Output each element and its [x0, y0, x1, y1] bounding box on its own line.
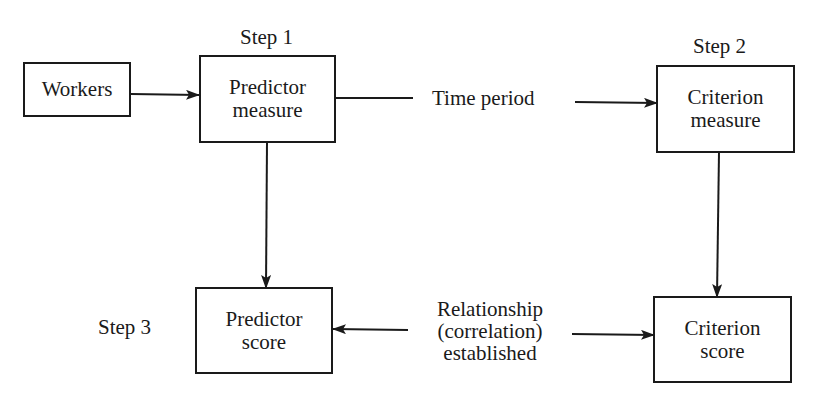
node-criterion-score-line-2: score [700, 340, 744, 363]
edge-label-relationship-line-2: (correlation) [420, 320, 560, 342]
edge-label-relationship-line-3: established [420, 342, 560, 364]
edge-label-relationship-line-1: Relationship [420, 298, 560, 320]
arrow-criterion-measure-to-criterion-score [717, 152, 719, 297]
node-criterion-measure-line-1: Criterion [688, 86, 764, 109]
node-predictor-score-line-2: score [242, 331, 286, 354]
node-predictor-score: Predictor score [195, 287, 333, 374]
node-workers-line-1: Workers [42, 78, 113, 101]
arrow-relationship-to-predictor-score [333, 329, 408, 330]
predictive-validity-diagram: Step 1 Step 2 Step 3 Workers Predictor m… [0, 0, 819, 401]
node-criterion-measure: Criterion measure [656, 65, 795, 153]
edge-label-relationship: Relationship (correlation) established [420, 298, 560, 364]
step-1-label: Step 1 [240, 26, 293, 49]
arrow-workers-to-predictor-measure [131, 94, 199, 95]
node-criterion-score-line-1: Criterion [685, 317, 761, 340]
node-criterion-score: Criterion score [653, 296, 792, 383]
node-predictor-measure-line-1: Predictor [229, 76, 306, 99]
node-predictor-measure: Predictor measure [199, 55, 336, 143]
node-workers: Workers [23, 62, 131, 117]
arrow-predictor-measure-to-predictor-score [266, 142, 267, 288]
node-criterion-measure-line-2: measure [691, 109, 761, 132]
node-predictor-measure-line-2: measure [233, 99, 303, 122]
edge-label-time-period: Time period [432, 87, 534, 110]
arrow-relationship-to-criterion-score [572, 334, 654, 335]
node-predictor-score-line-1: Predictor [226, 308, 303, 331]
step-3-label: Step 3 [98, 316, 151, 339]
arrow-time-period-to-criterion-measure [575, 102, 657, 103]
step-2-label: Step 2 [693, 35, 746, 58]
